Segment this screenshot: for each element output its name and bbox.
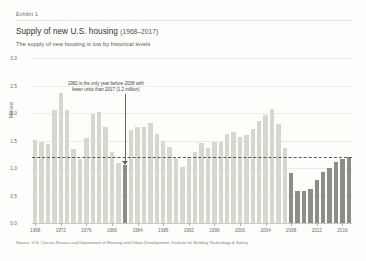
bar-2012 (315, 180, 319, 223)
bar-1968 (33, 140, 37, 223)
bar-1992 (187, 157, 191, 223)
y-tick-label: 1.0 (0, 166, 17, 171)
bar-1985 (142, 127, 146, 223)
x-tick-mark (317, 223, 318, 226)
bar-1995 (206, 148, 210, 223)
annotation-line-1: 1982 is the only year before 2008 with (68, 81, 144, 86)
x-tick-label: 2008 (286, 228, 296, 233)
chart-title-text: Supply of new U.S. housing (16, 27, 118, 36)
bar-1980 (110, 152, 114, 223)
bar-1973 (65, 110, 69, 223)
bar-2017 (347, 157, 351, 223)
bar-2016 (340, 159, 344, 223)
bar-2013 (321, 172, 325, 223)
y-tick-label: 2.5 (0, 83, 17, 88)
y-tick-label: 0.5 (0, 193, 17, 198)
bar-1996 (212, 142, 216, 223)
x-tick-mark (112, 223, 113, 226)
bar-1997 (219, 142, 223, 223)
x-tick-mark (214, 223, 215, 226)
x-tick-label: 2000 (235, 228, 245, 233)
bar-1990 (174, 158, 178, 223)
chart-subtitle: The supply of new housing is low by hist… (16, 41, 150, 47)
exhibit-page: Exhibit 1 Supply of new U.S. housing (19… (0, 0, 366, 261)
bar-1987 (155, 134, 159, 223)
x-tick-mark (86, 223, 87, 226)
x-tick-mark (138, 223, 139, 226)
exhibit-label: Exhibit 1 (16, 11, 38, 17)
bar-2004 (263, 115, 267, 223)
x-tick-label: 2012 (312, 228, 322, 233)
bar-1994 (199, 143, 203, 223)
x-tick-label: 2016 (337, 228, 347, 233)
bar-2002 (251, 129, 255, 223)
bar-1983 (129, 130, 133, 224)
bar-2009 (295, 191, 299, 223)
bar-1982 (123, 165, 127, 223)
bar-1991 (180, 167, 184, 223)
x-tick-label: 1976 (81, 228, 91, 233)
x-tick-mark (240, 223, 241, 226)
bar-1988 (161, 141, 165, 223)
bar-2008 (289, 173, 293, 223)
annotation-arrow-icon (122, 161, 128, 165)
x-tick-label: 1984 (132, 228, 142, 233)
x-tick-label: 1972 (56, 228, 66, 233)
bar-1998 (225, 134, 229, 223)
chart-plot-area: 0.00.51.01.52.02.53.0 1982 is the only y… (32, 58, 352, 223)
x-tick-mark (266, 223, 267, 226)
gridline (32, 223, 352, 224)
bar-1989 (167, 147, 171, 223)
bar-2005 (270, 109, 274, 223)
annotation-line-2: fewer units than 2017 (1.2 million) (72, 87, 140, 92)
y-tick-label: 1.5 (0, 138, 17, 143)
x-tick-label: 1968 (30, 228, 40, 233)
y-tick-label: 2.0 (0, 111, 17, 116)
annotation-pointer-line (125, 94, 126, 161)
bar-2006 (276, 124, 280, 223)
reference-line (32, 157, 352, 158)
x-tick-mark (61, 223, 62, 226)
x-tick-mark (163, 223, 164, 226)
bar-2011 (308, 189, 312, 223)
x-tick-label: 1980 (107, 228, 117, 233)
bar-1981 (116, 163, 120, 224)
chart-title-years: (1968–2017) (120, 28, 158, 35)
bar-1986 (148, 123, 152, 223)
bar-1975 (78, 159, 82, 223)
bar-2010 (302, 191, 306, 223)
y-tick-label: 0.0 (0, 221, 17, 226)
x-tick-label: 1992 (184, 228, 194, 233)
header-divider (16, 20, 352, 21)
page-title: Supply of new U.S. housing (1968–2017) (16, 27, 158, 36)
x-tick-mark (342, 223, 343, 226)
annotation-callout: 1982 is the only year before 2008 with f… (47, 81, 165, 93)
bar-1979 (103, 127, 107, 223)
x-tick-mark (291, 223, 292, 226)
x-tick-label: 1988 (158, 228, 168, 233)
bar-1972 (59, 93, 63, 223)
bar-1978 (97, 112, 101, 223)
bar-2001 (244, 135, 248, 223)
bar-2014 (327, 168, 331, 223)
bar-1977 (91, 114, 95, 223)
x-tick-label: 2004 (260, 228, 270, 233)
source-note: Source: U.S. Census Bureau and Departmen… (16, 240, 248, 245)
bar-1971 (52, 110, 56, 223)
bar-1999 (231, 132, 235, 223)
bar-2007 (283, 148, 287, 223)
bar-1969 (39, 142, 43, 223)
y-tick-label: 3.0 (0, 56, 17, 61)
bar-1976 (84, 138, 88, 223)
bar-1974 (71, 149, 75, 223)
bar-1984 (135, 127, 139, 223)
bar-2003 (257, 121, 261, 223)
x-tick-mark (189, 223, 190, 226)
x-tick-mark (35, 223, 36, 226)
bar-2000 (238, 137, 242, 223)
bar-1993 (193, 152, 197, 223)
bar-2015 (334, 162, 338, 223)
x-tick-label: 1996 (209, 228, 219, 233)
